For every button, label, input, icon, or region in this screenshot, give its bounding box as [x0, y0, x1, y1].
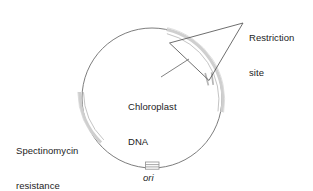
chloroplast-dna-leader: [161, 59, 189, 77]
restriction-site-label: Restriction site: [249, 9, 294, 101]
restriction-site-leader-lower: [209, 23, 243, 81]
chloroplast-dna-label-line2: DNA: [128, 136, 177, 148]
chloroplast-dna-label: Chloroplast DNA: [128, 78, 177, 170]
chloroplast-dna-label-line1: Chloroplast: [128, 101, 177, 113]
spectinomycin-resistance-gene-label: Spectinomycin resistance gene: [16, 122, 78, 190]
plasmid-map-figure: Restriction site Chloroplast DNA Spectin…: [0, 0, 313, 190]
spectinomycin-label-line1: Spectinomycin: [16, 145, 78, 157]
restriction-site-label-line1: Restriction: [249, 32, 294, 44]
spectinomycin-label-line2: resistance: [16, 180, 78, 191]
ori-label: ori: [143, 172, 154, 184]
restriction-site-label-line2: site: [249, 67, 294, 79]
